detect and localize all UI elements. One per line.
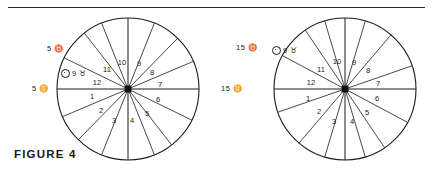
taurus-icon: ♉ xyxy=(79,69,87,78)
house-number: 12 xyxy=(93,78,101,87)
house-number: 4 xyxy=(130,116,134,125)
house-number: 6 xyxy=(156,95,160,104)
figure-4-twelfth-cusp-label: 5 ♉ xyxy=(47,44,64,53)
sun-icon xyxy=(272,46,281,55)
figure-5-panel: 15 ♉ 15 ♊ 9 ♉ 1 2 3 4 5 6 7 8 9 10 11 12… xyxy=(217,0,433,176)
house-number: 8 xyxy=(366,66,370,75)
sun-icon xyxy=(61,69,70,78)
house-number: 4 xyxy=(350,117,354,126)
figure-4-panel: 5 ♉ 5 ♊ 9 ♉ 1 2 3 4 5 6 7 8 9 10 11 12 F… xyxy=(0,0,216,176)
house-number: 11 xyxy=(103,65,111,74)
house-number: 5 xyxy=(145,109,149,118)
house-number: 6 xyxy=(375,94,379,103)
house-number: 11 xyxy=(317,65,325,74)
house-number: 1 xyxy=(306,94,310,103)
house-number: 2 xyxy=(317,107,321,116)
house-number: 3 xyxy=(112,116,116,125)
ascendant-cusp-text: 15 ♊ xyxy=(221,84,242,93)
wheel-center-marker xyxy=(342,86,349,93)
figure-5-sun-placement: 9 ♉ xyxy=(272,46,297,55)
house-number: 9 xyxy=(352,58,356,67)
house-number: 2 xyxy=(99,106,103,115)
figure-5-twelfth-cusp-label: 15 ♉ xyxy=(236,43,257,52)
page-canvas: 5 ♉ 5 ♊ 9 ♉ 1 2 3 4 5 6 7 8 9 10 11 12 F… xyxy=(0,0,433,176)
house-number: 7 xyxy=(376,79,380,88)
twelfth-cusp-text: 15 ♉ xyxy=(236,43,257,52)
house-number: 8 xyxy=(150,68,154,77)
figure-4-caption: FIGURE 4 xyxy=(14,148,77,160)
house-number: 10 xyxy=(118,58,126,67)
house-number: 5 xyxy=(365,108,369,117)
ascendant-cusp-text: 5 ♊ xyxy=(32,84,49,93)
house-number: 10 xyxy=(333,57,341,66)
house-number: 3 xyxy=(332,117,336,126)
figure-4-sun-placement: 9 ♉ xyxy=(61,69,86,78)
house-number: 1 xyxy=(90,92,94,101)
house-number: 7 xyxy=(158,80,162,89)
house-number: 9 xyxy=(137,59,141,68)
house-wheel-figure-5 xyxy=(217,0,433,176)
house-number: 12 xyxy=(307,78,315,87)
figure-5-ascendant-cusp-label: 15 ♊ xyxy=(221,84,242,93)
taurus-icon: ♉ xyxy=(290,46,298,55)
figure-4-ascendant-cusp-label: 5 ♊ xyxy=(32,84,49,93)
twelfth-cusp-text: 5 ♉ xyxy=(47,44,64,53)
sun-degree: 9 xyxy=(72,69,77,78)
wheel-center-marker xyxy=(125,86,132,93)
sun-degree: 9 xyxy=(283,46,288,55)
